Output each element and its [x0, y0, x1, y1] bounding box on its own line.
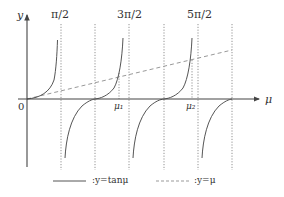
label-3pi-over-2: 3π/2 — [117, 9, 142, 20]
label-mu2: μ₂ — [186, 102, 195, 111]
tan-mu-diagram — [0, 0, 284, 197]
label-5pi-over-2: 5π/2 — [187, 9, 212, 20]
label-pi-over-2: π/2 — [51, 9, 69, 20]
vertical-guides — [61, 24, 232, 170]
label-mu1: μ₁ — [114, 102, 123, 111]
tan-branch-4 — [202, 99, 232, 158]
y-axis-label: y — [17, 10, 23, 21]
tan-branch-2 — [65, 38, 123, 158]
tan-branch-1 — [27, 40, 58, 99]
origin-label: 0 — [18, 102, 24, 112]
legend-mu-label: :y=μ — [194, 176, 216, 185]
tan-curve — [27, 38, 232, 158]
tan-branch-3 — [133, 38, 192, 158]
mu-axis-label: μ — [265, 94, 272, 105]
line-y-equals-mu — [27, 50, 232, 99]
legend-tan-label: :y=tanμ — [92, 176, 128, 185]
